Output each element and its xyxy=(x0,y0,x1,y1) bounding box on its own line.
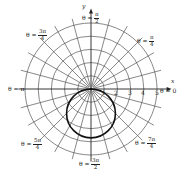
angle-label-pi-2: θ = π2 xyxy=(82,12,99,24)
y-axis-label: y xyxy=(82,3,85,9)
r-tick-5: 5 xyxy=(155,90,159,96)
r-tick-1: 1 xyxy=(102,90,106,96)
x-axis-label: x xyxy=(171,78,174,84)
angle-label-pi: θ = π xyxy=(8,86,24,92)
angle-label-pi-4: θ = π4 xyxy=(137,35,154,47)
angle-label-7pi-4: θ = 7π4 xyxy=(135,137,156,149)
angle-label-5pi-4: θ = 5π4 xyxy=(21,138,42,150)
angle-label-3pi-4: θ = 3π4 xyxy=(26,29,47,41)
r-tick-4: 4 xyxy=(141,90,145,96)
r-tick-2: 2 xyxy=(114,90,118,96)
angle-label-3pi-2: θ = 3π2 xyxy=(79,158,100,170)
r-tick-3: 3 xyxy=(128,90,132,96)
angle-label-0: θ = 0 xyxy=(160,88,176,94)
